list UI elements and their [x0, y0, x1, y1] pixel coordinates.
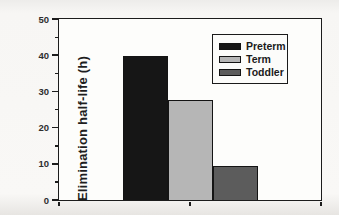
legend-label: Toddler	[246, 67, 284, 78]
legend-row-preterm: Preterm	[219, 40, 287, 53]
bar-preterm	[123, 56, 168, 200]
legend-swatch-icon	[219, 56, 241, 63]
y-major-tick	[52, 199, 58, 201]
y-axis-title: Elimination half-life (h)	[75, 49, 90, 209]
x-left-corner-tick	[58, 202, 60, 206]
y-tick-label: 20	[25, 123, 49, 132]
x-center-tick	[189, 202, 191, 206]
y-major-tick	[52, 91, 58, 93]
legend-swatch-icon	[219, 69, 241, 76]
bar-chart: Elimination half-life (h) 01020304050 Pr…	[0, 0, 339, 215]
y-major-tick	[52, 127, 58, 129]
y-minor-tick	[55, 37, 58, 39]
legend-label: Preterm	[246, 41, 286, 52]
y-minor-tick	[55, 181, 58, 183]
y-minor-tick	[55, 73, 58, 75]
y-tick-label: 50	[25, 15, 49, 24]
y-major-tick	[52, 163, 58, 165]
y-tick-label: 40	[25, 51, 49, 60]
y-tick-label: 0	[25, 196, 49, 205]
bar-toddler	[213, 166, 258, 200]
legend-box: PretermTermToddler	[212, 34, 288, 84]
y-major-tick	[52, 18, 58, 20]
legend-label: Term	[246, 54, 271, 65]
y-minor-tick	[55, 145, 58, 147]
bar-term	[168, 100, 213, 200]
y-tick-label: 10	[25, 159, 49, 168]
y-tick-label: 30	[25, 87, 49, 96]
legend-rows: PretermTermToddler	[219, 40, 287, 79]
y-major-tick	[52, 54, 58, 56]
legend-row-toddler: Toddler	[219, 66, 287, 79]
legend-swatch-icon	[219, 43, 241, 50]
y-minor-tick	[55, 109, 58, 111]
x-right-corner-tick	[320, 202, 322, 206]
legend-row-term: Term	[219, 53, 287, 66]
